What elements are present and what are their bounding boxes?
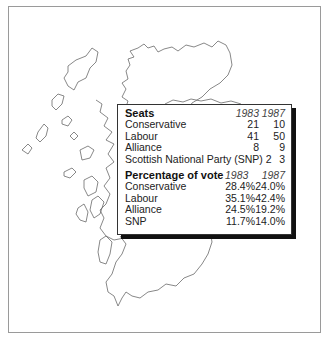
seats-1987: 3: [272, 154, 285, 165]
seats-1987: 9: [259, 142, 285, 153]
votes-1987: 14.0%: [255, 216, 285, 227]
votes-row: SNP 11.7% 14.0%: [125, 216, 285, 227]
seats-1983: 2: [263, 154, 273, 165]
party-label: Alliance: [125, 204, 219, 215]
election-results-table: Seats 1983 1987 Conservative 21 10 Labou…: [117, 104, 292, 235]
party-label: Scottish National Party (SNP): [125, 154, 263, 165]
party-label: Alliance: [125, 142, 231, 153]
seats-row: Scottish National Party (SNP) 2 3: [125, 154, 285, 165]
party-label: SNP: [125, 216, 219, 227]
votes-1987: 19.2%: [255, 204, 285, 215]
votes-1983: 11.7%: [219, 216, 255, 227]
seats-1983: 8: [231, 142, 259, 153]
votes-row: Alliance 24.5% 19.2%: [125, 204, 285, 215]
votes-1983: 24.5%: [219, 204, 255, 215]
seats-row: Alliance 8 9: [125, 142, 285, 153]
